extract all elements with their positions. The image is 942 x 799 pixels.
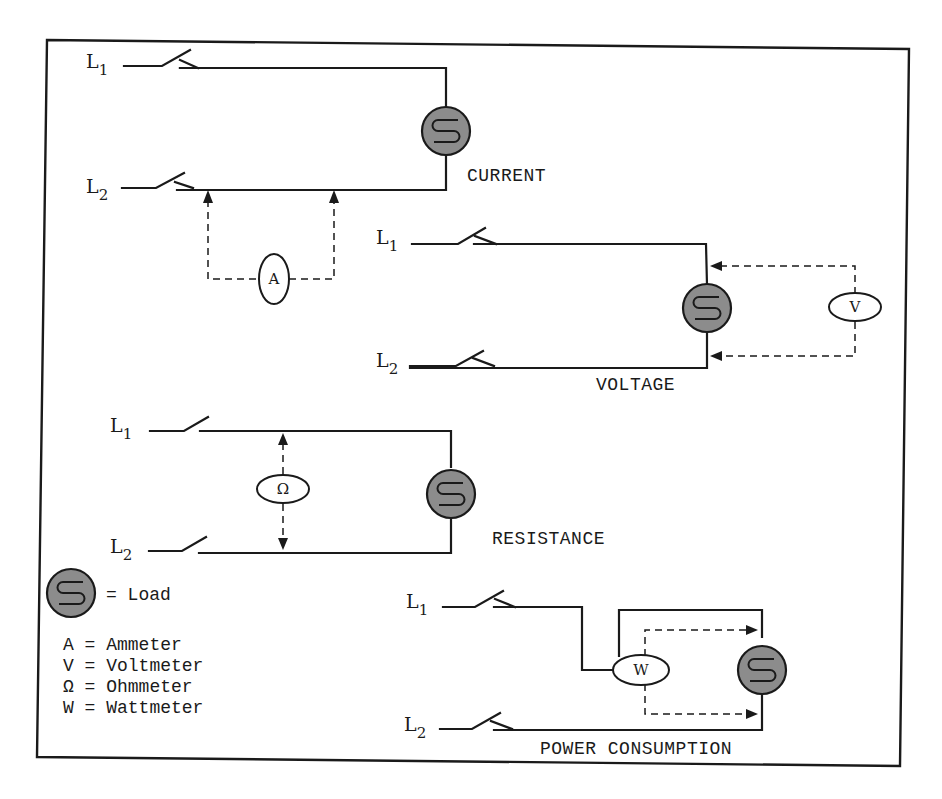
load-icon bbox=[427, 470, 475, 518]
load-icon bbox=[683, 284, 731, 332]
legend-load: = Load bbox=[106, 585, 171, 605]
current-caption: CURRENT bbox=[467, 166, 546, 186]
legend-wattmeter: W = Wattmeter bbox=[63, 698, 203, 718]
load-icon bbox=[47, 569, 95, 617]
l2-label: L2 bbox=[376, 349, 398, 378]
l1-label: L1 bbox=[86, 50, 108, 79]
ohmmeter-symbol: Ω bbox=[277, 480, 289, 498]
legend-ammeter: A = Ammeter bbox=[63, 635, 182, 655]
l1-label: L1 bbox=[110, 414, 132, 443]
legend-voltmeter: V = Voltmeter bbox=[63, 656, 203, 676]
l2-label: L2 bbox=[86, 175, 108, 204]
l1-label: L1 bbox=[376, 226, 398, 255]
power-caption: POWER CONSUMPTION bbox=[540, 739, 732, 759]
load-icon bbox=[738, 646, 786, 694]
resistance-circuit: L1 L2 Ω RESISTANCE bbox=[110, 414, 605, 564]
voltmeter-symbol: V bbox=[849, 298, 862, 316]
electrical-measurement-diagram: L1 L2 A CURRENT L1 L2 V VOLTAGE bbox=[0, 0, 942, 799]
legend-ohmmeter: Ω = Ohmmeter bbox=[63, 677, 193, 697]
resistance-caption: RESISTANCE bbox=[492, 529, 605, 549]
l2-label: L2 bbox=[404, 713, 426, 742]
l2-label: L2 bbox=[110, 535, 132, 564]
ammeter-symbol: A bbox=[268, 270, 280, 288]
legend: = Load A = Ammeter V = Voltmeter Ω = Ohm… bbox=[47, 569, 203, 718]
l1-label: L1 bbox=[406, 590, 428, 619]
current-circuit: L1 L2 A CURRENT bbox=[86, 50, 546, 304]
load-icon bbox=[422, 107, 470, 155]
voltage-circuit: L1 L2 V VOLTAGE bbox=[376, 226, 881, 395]
voltage-caption: VOLTAGE bbox=[596, 375, 675, 395]
wattmeter-symbol: W bbox=[633, 661, 649, 679]
power-circuit: L1 L2 W POWER CONSUMPTION bbox=[404, 590, 786, 759]
